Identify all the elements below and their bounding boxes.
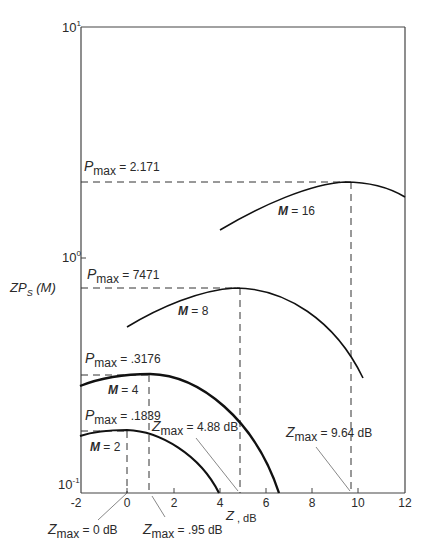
curve-label-m16: M = 16 — [278, 204, 315, 218]
ytick-label-10-1: 101 — [62, 19, 81, 35]
ytick-label-10-0: 100 — [62, 249, 81, 265]
zmax-label-m8: Zmax = 4.88 dB — [151, 418, 238, 438]
zmax-label-m2: Zmax = 0 dB — [47, 521, 118, 541]
xtick-label: 6 — [263, 496, 270, 510]
zmax-dashed-lines — [127, 182, 351, 493]
pmax-label-m16: Pmax = 2.171 — [84, 158, 160, 178]
chart: 101 100 10-1 -2 0 2 4 6 8 10 12 ZPS (M) … — [0, 0, 424, 549]
zmax-label-m16: Zmax = 9.64 dB — [285, 424, 372, 444]
zmax-annotations: Zmax = 0 dB Zmax = .95 dB Zmax = 4.88 dB… — [47, 418, 372, 541]
zmax-label-m4: Zmax = .95 dB — [142, 521, 223, 541]
xtick-label: 12 — [398, 496, 412, 510]
curve-m8 — [127, 288, 363, 378]
curves — [80, 182, 405, 493]
plot-frame — [81, 27, 405, 493]
pmax-label-m8: Pmax = 7471 — [87, 266, 160, 286]
x-ticks: -2 0 2 4 6 8 10 12 — [71, 488, 412, 510]
ytick-label-10-minus1: 10-1 — [58, 476, 80, 492]
xtick-label: 8 — [309, 496, 316, 510]
curve-label-m2: M = 2 — [90, 440, 121, 454]
xtick-label: 2 — [171, 496, 178, 510]
pmax-label-m4: Pmax = .3176 — [85, 350, 161, 370]
xtick-label: 0 — [124, 496, 131, 510]
pmax-label-m2: Pmax = .1839 — [85, 407, 161, 427]
xtick-label: 10 — [351, 496, 365, 510]
x-axis-title: Z , dB — [225, 508, 257, 524]
curve-label-m4: M = 4 — [108, 383, 139, 397]
xtick-label: -2 — [71, 496, 82, 510]
xtick-label: 4 — [217, 496, 224, 510]
y-axis-title: ZPS (M) — [9, 280, 56, 298]
curve-label-m8: M = 8 — [178, 304, 209, 318]
y-ticks: 101 100 10-1 — [58, 19, 86, 492]
